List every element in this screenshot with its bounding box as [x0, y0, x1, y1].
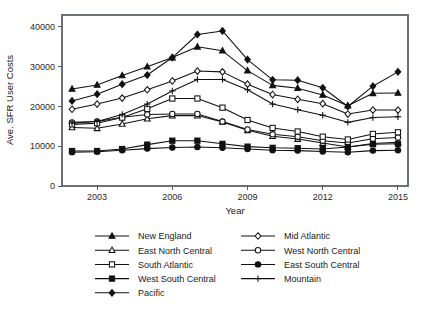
- data-marker: [255, 248, 260, 253]
- y-tick-label: 0: [50, 181, 55, 191]
- data-marker: [320, 146, 325, 151]
- data-marker: [170, 138, 175, 143]
- y-tick-label: 40000: [30, 22, 55, 32]
- data-marker: [295, 129, 300, 134]
- data-marker: [245, 144, 250, 149]
- data-marker: [345, 144, 350, 149]
- data-marker: [245, 117, 250, 122]
- data-marker: [120, 146, 125, 151]
- legend-label: Mountain: [284, 274, 321, 284]
- legend-label: New England: [138, 231, 192, 241]
- data-marker: [245, 127, 250, 132]
- chart-figure: 010000200003000040000 200320062009201220…: [0, 0, 424, 315]
- data-marker: [195, 96, 200, 101]
- data-marker: [220, 141, 225, 146]
- data-marker: [370, 142, 375, 147]
- y-tick-label: 30000: [30, 62, 55, 72]
- data-marker: [295, 146, 300, 151]
- data-marker: [220, 105, 225, 110]
- data-marker: [170, 145, 175, 150]
- data-marker: [170, 111, 175, 116]
- x-tick-label: 2009: [238, 192, 258, 202]
- user-costs-line-chart: 010000200003000040000 200320062009201220…: [0, 0, 424, 315]
- data-marker: [270, 125, 275, 130]
- data-marker: [195, 138, 200, 143]
- data-marker: [195, 111, 200, 116]
- data-marker: [145, 142, 150, 147]
- x-tick-label: 2006: [162, 192, 182, 202]
- legend-label: Pacific: [138, 288, 165, 298]
- data-marker: [395, 130, 400, 135]
- data-marker: [395, 141, 400, 146]
- data-marker: [345, 149, 350, 154]
- chart-background: [0, 0, 424, 315]
- data-marker: [295, 134, 300, 139]
- data-marker: [370, 148, 375, 153]
- data-marker: [69, 148, 74, 153]
- x-axis-title: Year: [225, 205, 244, 216]
- data-marker: [370, 131, 375, 136]
- y-tick-label: 10000: [30, 141, 55, 151]
- legend-label: East North Central: [138, 246, 212, 256]
- data-marker: [320, 134, 325, 139]
- legend-label: South Atlantic: [138, 260, 194, 270]
- data-marker: [395, 148, 400, 153]
- data-marker: [220, 119, 225, 124]
- data-marker: [345, 137, 350, 142]
- data-marker: [170, 96, 175, 101]
- data-marker: [270, 132, 275, 137]
- y-axis-title: Ave. SFR User Costs: [4, 55, 15, 145]
- data-marker: [109, 276, 114, 281]
- data-marker: [145, 112, 150, 117]
- legend-label: West South Central: [138, 274, 216, 284]
- data-marker: [270, 145, 275, 150]
- x-tick-label: 2015: [388, 192, 408, 202]
- data-marker: [95, 148, 100, 153]
- data-marker: [255, 262, 260, 267]
- x-tick-label: 2012: [313, 192, 333, 202]
- legend-label: East South Central: [284, 260, 360, 270]
- x-tick-label: 2003: [87, 192, 107, 202]
- y-tick-label: 20000: [30, 102, 55, 112]
- data-marker: [395, 135, 400, 140]
- legend-label: West North Central: [284, 246, 360, 256]
- data-marker: [109, 262, 114, 267]
- data-marker: [195, 144, 200, 149]
- legend-label: Mid Atlantic: [284, 231, 331, 241]
